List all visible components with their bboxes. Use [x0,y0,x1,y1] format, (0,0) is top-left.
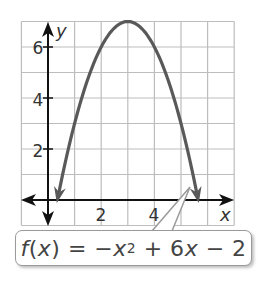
y-tick-label-2: 2 [33,141,44,161]
callout-f: f [20,236,28,261]
y-tick-label-4: 4 [33,90,44,110]
function-callout: f(x) = −x2 + 6x − 2 [15,230,252,266]
x-axis-label: x [219,204,231,225]
y-axis-label: y [55,20,67,41]
callout-x1: x [38,236,52,261]
x-tick-label-4: 4 [149,205,160,225]
callout-paren-open: ( [29,236,38,261]
x-tick-label-2: 2 [96,205,107,225]
callout-tail: − 2 [198,236,246,261]
callout-x3: x [185,236,199,261]
y-tick-label-6: 6 [33,38,44,58]
callout-x2: x [113,236,127,261]
grid-lines [21,22,234,226]
callout-paren-close: ) [51,236,60,261]
callout-eq: = − [60,236,113,261]
callout-plus: + 6 [136,236,184,261]
